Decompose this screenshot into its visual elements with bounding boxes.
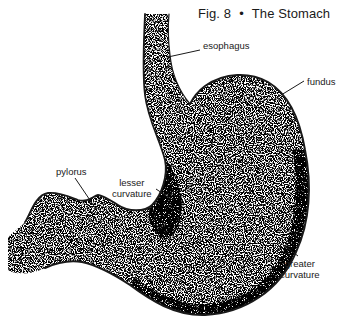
stomach-body [8,14,309,315]
label-fundus: fundus [307,76,336,87]
label-esophagus: esophagus [203,40,249,51]
label-greater-curvature-line2: curvature [280,269,320,280]
label-lesser-curvature: lesser curvature [112,177,152,199]
label-lesser-curvature-line1: lesser [112,177,152,188]
label-greater-curvature: greater curvature [280,258,320,280]
label-lesser-curvature-line2: curvature [112,188,152,199]
stomach-illustration [0,0,352,330]
label-greater-curvature-line1: greater [280,258,320,269]
label-pylorus: pylorus [56,166,87,177]
esophagus-leader [168,50,200,57]
